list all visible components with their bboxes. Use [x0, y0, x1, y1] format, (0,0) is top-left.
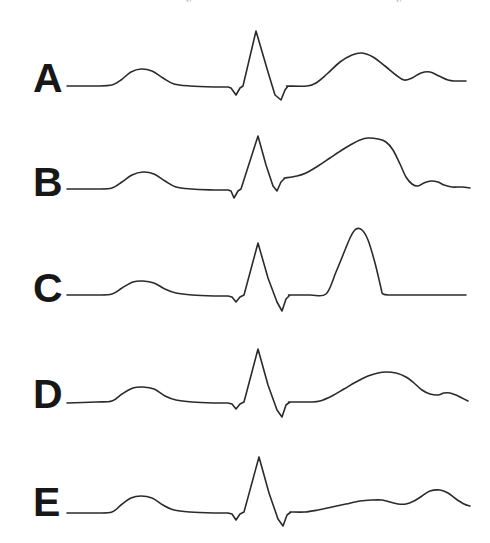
ecg-waveform-a [0, 0, 490, 543]
ecg-figure: y y A B C D E [0, 0, 490, 543]
ecg-path-a [67, 31, 466, 100]
ecg-path-e [67, 457, 470, 526]
ecg-path-c [67, 228, 466, 311]
trace-label-e: E [33, 482, 60, 523]
trace-label-b: B [33, 162, 63, 203]
trace-label-d: D [33, 374, 63, 415]
ecg-path-b [67, 136, 470, 198]
ecg-path-d [67, 349, 468, 417]
ecg-trace-row-a: A [0, 0, 490, 110]
trace-label-a: A [33, 58, 63, 99]
trace-label-c: C [33, 268, 63, 309]
